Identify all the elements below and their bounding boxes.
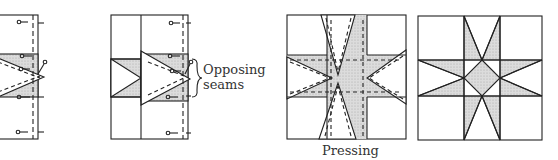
panel-3 — [287, 15, 406, 139]
panel-4 — [418, 16, 542, 140]
pressing-caption: Pressing — [322, 143, 379, 158]
opposing-label-line1: Opposing — [203, 62, 266, 77]
panel-1 — [0, 15, 47, 139]
opposing-seams-label: Opposing seams — [203, 62, 266, 92]
quilt-diagram — [0, 0, 558, 160]
brace-icon — [192, 59, 202, 97]
panel-2 — [111, 15, 202, 139]
opposing-label-line2: seams — [203, 77, 266, 92]
